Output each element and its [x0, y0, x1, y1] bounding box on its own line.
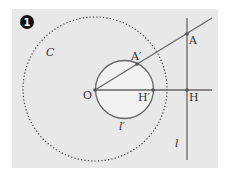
- label-c: C: [46, 46, 55, 59]
- label-a: A: [188, 34, 198, 47]
- point-h-prime: [151, 88, 155, 92]
- label-a-prime: A′: [130, 50, 142, 63]
- geometry-figure: 1 C A A′ O H′ H l′ l: [0, 0, 228, 179]
- point-o: [93, 88, 97, 92]
- label-l-prime: l′: [119, 120, 126, 133]
- label-h: H: [189, 91, 199, 104]
- svg-text:1: 1: [24, 17, 31, 28]
- figure-number-badge: 1: [20, 15, 34, 29]
- label-l: l: [175, 137, 179, 150]
- label-o: O: [83, 89, 92, 102]
- label-h-prime: H′: [138, 91, 151, 104]
